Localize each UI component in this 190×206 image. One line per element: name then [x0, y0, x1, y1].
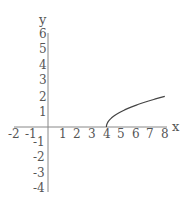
y-tick-label: -1: [33, 135, 45, 149]
x-tick-label: 4: [103, 127, 111, 141]
x-tick-label: 5: [117, 127, 125, 141]
y-tick-label: 5: [39, 42, 47, 56]
x-tick-label: 6: [132, 127, 140, 141]
sqrt-curve: [106, 96, 164, 127]
y-tick-label: -2: [33, 150, 45, 164]
x-tick-label: 2: [73, 127, 81, 141]
y-axis-label: y: [38, 12, 47, 27]
x-tick-label: -2: [8, 127, 20, 141]
y-tick-label: -4: [33, 181, 45, 195]
x-axis-label: x: [172, 119, 180, 134]
y-tick-label: 4: [39, 58, 47, 72]
x-tick-label: 8: [161, 127, 169, 141]
x-tick-label: 3: [88, 127, 96, 141]
y-tick-labels: 6 5 4 3 2 1 -1 -2 -3 -4: [33, 27, 47, 195]
y-tick-label: 2: [39, 90, 47, 104]
y-tick-label: 1: [39, 105, 47, 119]
x-tick-label: 1: [59, 127, 67, 141]
x-tick-label: 7: [146, 127, 154, 141]
y-tick-label: 6: [39, 27, 47, 41]
y-tick-label: -3: [33, 166, 45, 180]
y-tick-label: 3: [39, 73, 47, 87]
plot-canvas: y x -2 -1 1 2 3 4 5 6 7 8 6 5 4 3 2 1 -1…: [0, 0, 190, 206]
